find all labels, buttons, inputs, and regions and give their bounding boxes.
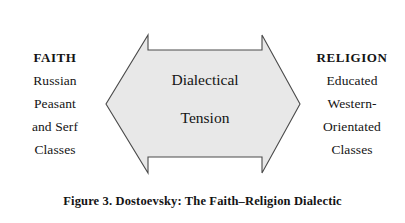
religion-label-group: RELIGION Educated Western- Orientated Cl… — [304, 46, 400, 161]
double-headed-arrow-icon — [103, 31, 303, 177]
faith-label-group: FAITH Russian Peasant and Serf Classes — [7, 46, 103, 161]
religion-line-classes: Classes — [304, 138, 400, 161]
faith-line-classes: Classes — [7, 138, 103, 161]
faith-line-and-serf: and Serf — [7, 115, 103, 138]
religion-heading: RELIGION — [304, 46, 400, 69]
figure-canvas: FAITH Russian Peasant and Serf Classes R… — [0, 0, 405, 223]
double-headed-arrow-shape — [103, 31, 303, 177]
religion-line-western: Western- — [304, 92, 400, 115]
faith-line-peasant: Peasant — [7, 92, 103, 115]
arrow-outline — [106, 35, 300, 173]
figure-caption: Figure 3. Dostoevsky: The Faith–Religion… — [0, 194, 405, 209]
religion-line-orientated: Orientated — [304, 115, 400, 138]
religion-line-educated: Educated — [304, 69, 400, 92]
faith-line-russian: Russian — [7, 69, 103, 92]
arrow-text-dialectical: Dialectical — [130, 71, 280, 89]
arrow-text-tension: Tension — [130, 109, 280, 127]
faith-heading: FAITH — [7, 46, 103, 69]
